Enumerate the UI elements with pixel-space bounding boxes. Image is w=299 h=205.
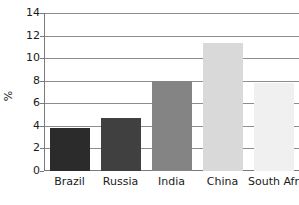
bar-south-africa xyxy=(254,83,294,171)
x-tick-label: Brazil xyxy=(44,175,95,188)
y-tick-label: 14 xyxy=(20,7,40,18)
y-tick-label: 2 xyxy=(20,142,40,153)
y-tick-label: 12 xyxy=(20,30,40,41)
y-axis-tick-labels: 02468101214 xyxy=(18,0,40,205)
y-tick-label: 8 xyxy=(20,75,40,86)
bar-russia xyxy=(101,118,141,171)
x-tick-label: South Africa xyxy=(248,175,299,188)
y-tick-label: 10 xyxy=(20,52,40,63)
x-tick-label: China xyxy=(197,175,248,188)
x-tick-label: Russia xyxy=(95,175,146,188)
y-tick-label: 0 xyxy=(20,165,40,176)
x-tick-label: India xyxy=(146,175,197,188)
bar-brazil xyxy=(50,128,90,171)
y-tick-label: 6 xyxy=(20,97,40,108)
y-axis-title: % xyxy=(0,89,19,103)
y-tick-label: 4 xyxy=(20,120,40,131)
x-axis-tick-labels: BrazilRussiaIndiaChinaSouth Africa xyxy=(44,175,299,195)
y-tick-mark xyxy=(40,171,44,172)
plot-area xyxy=(44,13,299,171)
bar-india xyxy=(152,81,192,171)
bar-china xyxy=(203,43,243,171)
bars-layer xyxy=(44,13,299,171)
bar-chart: % 02468101214 BrazilRussiaIndiaChinaSout… xyxy=(0,0,299,205)
